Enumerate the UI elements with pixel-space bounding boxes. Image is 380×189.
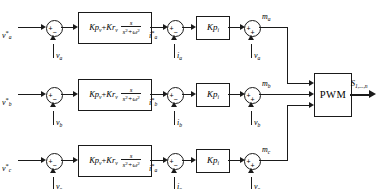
signal-line-ref-b <box>18 94 42 95</box>
arrowhead-pwm-out <box>369 90 376 98</box>
pwm-block: PWM <box>314 73 352 117</box>
label-current-ref-a: i*a <box>149 30 157 41</box>
pr-controller-expression-c: Kpv+Krv s s2+ω2 <box>89 153 141 169</box>
pwm-label: PWM <box>320 90 346 101</box>
label-feedforward-b: vb <box>254 119 260 128</box>
pr-controller-block-b: Kpv+Krv s s2+ω2 <box>78 79 152 111</box>
signal-line-ma-in <box>287 83 311 84</box>
label-voltage-fb-c: vc <box>56 183 62 189</box>
signal-line-mb <box>259 94 311 95</box>
pr-controller-block-a: Kpv+Krv s s2+ω2 <box>78 12 152 44</box>
arrowhead-ff-vc <box>248 168 254 173</box>
feedback-line-ib <box>174 111 175 125</box>
label-feedforward-c: vc <box>254 183 260 189</box>
feedforward-line-vb <box>251 111 252 125</box>
label-voltage-ref-a: v*a <box>2 30 12 41</box>
arrowhead-ib <box>171 102 177 107</box>
current-gain-expression-b: Kpi <box>207 90 219 100</box>
current-gain-block-c: Kpi <box>196 149 230 173</box>
feedback-line-vb <box>53 111 54 125</box>
label-current-ref-b: i*b <box>149 97 157 108</box>
label-switching-signals: S1,...,n <box>351 80 368 89</box>
pr-controller-expression-a: Kpv+Krv s s2+ω2 <box>89 20 141 36</box>
arrowhead-ff-va <box>248 35 254 40</box>
label-current-fb-c: ic <box>177 183 182 189</box>
signal-line-mc-v <box>287 105 288 161</box>
label-modulation-c: mc <box>262 146 270 155</box>
feedback-line-ia <box>174 44 175 58</box>
feedback-line-vc <box>53 177 54 189</box>
arrowhead-ff-vb <box>248 102 254 107</box>
label-voltage-ref-c: v*c <box>2 163 11 174</box>
current-gain-expression-a: Kpi <box>207 23 219 33</box>
signal-line-ref-c <box>18 160 42 161</box>
arrowhead-va <box>50 35 56 40</box>
label-voltage-ref-b: v*b <box>2 97 12 108</box>
pr-controller-block-c: Kpv+Krv s s2+ω2 <box>78 145 152 177</box>
arrowhead-ic <box>171 168 177 173</box>
label-feedforward-a: va <box>254 52 260 61</box>
arrowhead-ia <box>171 35 177 40</box>
label-voltage-fb-a: va <box>56 52 62 61</box>
signal-line-mc-in <box>287 105 311 106</box>
signal-line-ma-h <box>259 27 287 28</box>
signal-line-ref-a <box>18 27 42 28</box>
control-block-diagram: v*a + − va Kpv+Krv s s2+ω2 i*a + − ia <box>0 0 380 189</box>
signal-line-ma-v <box>287 27 288 83</box>
label-modulation-b: mb <box>262 80 271 89</box>
signal-line-mc-h <box>259 160 287 161</box>
pr-controller-expression-b: Kpv+Krv s s2+ω2 <box>89 87 141 103</box>
arrowhead-vb <box>50 102 56 107</box>
feedback-line-va <box>53 44 54 58</box>
label-current-fb-b: ib <box>177 119 182 128</box>
feedforward-line-vc <box>251 177 252 189</box>
arrowhead-vc <box>50 168 56 173</box>
label-current-ref-c: i*a <box>149 163 157 174</box>
label-voltage-fb-b: vb <box>56 119 62 128</box>
feedback-line-ic <box>174 177 175 189</box>
label-current-fb-a: ia <box>177 52 182 61</box>
current-gain-block-a: Kpi <box>196 16 230 40</box>
feedforward-line-va <box>251 44 252 58</box>
current-gain-expression-c: Kpi <box>207 156 219 166</box>
current-gain-block-b: Kpi <box>196 83 230 107</box>
label-modulation-a: ma <box>262 13 271 22</box>
